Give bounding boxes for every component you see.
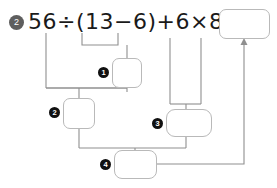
arrow-head-icon [241,38,248,45]
bracket-parenthesis-group [82,33,118,45]
step-marker-2: 2 [49,107,60,118]
step-3-box[interactable] [166,109,212,137]
answer-box[interactable] [219,9,270,39]
step-marker-1: 1 [98,67,109,78]
math-worksheet-problem: 2 56÷(13−6)+6×8= 1 2 [0,0,277,188]
step-marker-3: 3 [152,118,163,129]
step-2-box[interactable] [63,98,95,129]
step-marker-4: 4 [100,159,111,170]
step-4-box[interactable] [114,150,157,179]
step-1-box[interactable] [112,58,142,88]
